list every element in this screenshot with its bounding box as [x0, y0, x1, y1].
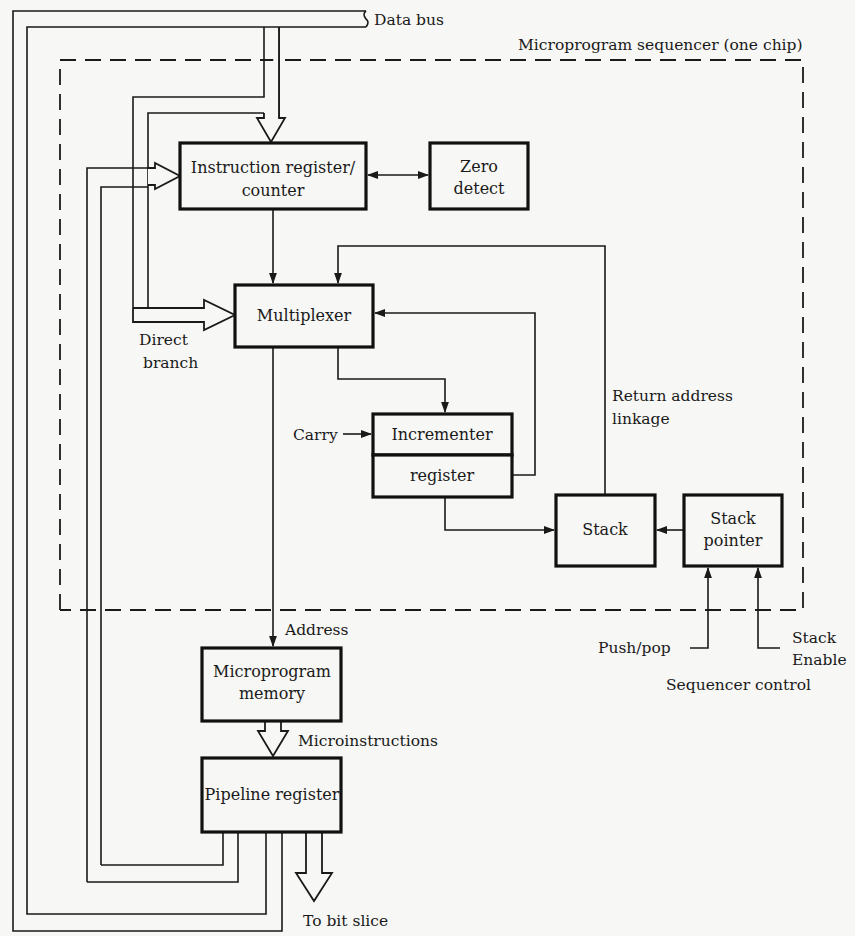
instruction-register-label-1: Instruction register/ — [191, 158, 356, 177]
return-address-label-2: linkage — [612, 410, 670, 428]
stack-pointer-label-1: Stack — [710, 509, 756, 528]
sequencer-control-label: Sequencer control — [666, 676, 811, 694]
pipeline-to-ir-arrow-icon — [148, 163, 180, 189]
to-bit-slice-arrow-icon — [296, 832, 332, 901]
instruction-register-label-2: counter — [242, 181, 305, 200]
microprogram-memory-label-1: Microprogram — [213, 662, 331, 681]
chip-title: Microprogram sequencer (one chip) — [518, 36, 803, 54]
stack-pointer-label-2: pointer — [704, 531, 763, 550]
return-address-label-1: Return address — [612, 387, 733, 405]
to-bit-slice-label: To bit slice — [303, 912, 388, 930]
incrementer-label: Incrementer — [391, 425, 493, 444]
zero-detect-block — [430, 143, 528, 209]
address-label: Address — [284, 621, 349, 639]
pipeline-register-label: Pipeline register — [205, 785, 340, 804]
push-pop-label: Push/pop — [598, 639, 671, 657]
direct-branch-label-2: branch — [143, 354, 198, 372]
microinstructions-label: Microinstructions — [298, 732, 438, 750]
incrementer-register-label: register — [410, 466, 475, 485]
microinstructions-arrow-icon — [258, 721, 288, 756]
data-bus-label: Data bus — [374, 11, 444, 29]
zero-detect-label-1: Zero — [460, 157, 498, 176]
stack-enable-label-2: Enable — [792, 651, 847, 669]
direct-branch-label-1: Direct — [139, 331, 189, 349]
microprogram-sequencer-diagram: Instruction register/ counter Zero detec… — [0, 0, 855, 936]
zero-detect-label-2: detect — [454, 179, 506, 198]
carry-label: Carry — [293, 426, 338, 444]
stack-enable-label-1: Stack — [792, 629, 837, 647]
data-bus-arrow-icon — [257, 27, 285, 142]
multiplexer-label: Multiplexer — [257, 306, 352, 325]
microprogram-memory-label-2: memory — [239, 684, 305, 703]
stack-label: Stack — [582, 520, 628, 539]
